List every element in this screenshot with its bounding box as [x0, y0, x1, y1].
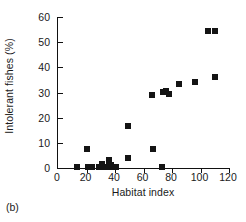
x-axis-tick-label: 0	[54, 172, 60, 183]
y-axis-tick-label: 20	[38, 112, 50, 123]
y-axis-title-text: Intolerant fishes (%)	[3, 38, 15, 133]
y-axis-tick-label: 10	[38, 138, 50, 149]
data-point	[150, 146, 156, 152]
panel-label: (b)	[6, 201, 19, 213]
x-axis-tick-label: 20	[80, 172, 92, 183]
data-point	[212, 28, 218, 34]
y-axis-title: Intolerant fishes (%)	[0, 0, 18, 172]
data-point	[205, 28, 211, 34]
y-axis-tick-label: 30	[38, 87, 50, 98]
x-axis-tick-label: 100	[191, 172, 209, 183]
x-axis-tick-labels: 020406080100120	[57, 172, 237, 186]
data-point	[89, 164, 95, 170]
x-axis-tick-label: 80	[165, 172, 177, 183]
data-point	[74, 164, 80, 170]
y-axis-tick-label: 40	[38, 62, 50, 73]
data-point	[166, 91, 172, 97]
y-axis-tick-label: 50	[38, 37, 50, 48]
scatter-chart-figure: Intolerant fishes (%) 0102030405060 0204…	[0, 0, 246, 222]
data-point	[125, 155, 131, 161]
y-axis-tick-mark	[58, 93, 63, 94]
x-axis-tick-label: 120	[219, 172, 237, 183]
y-axis-tick-mark	[58, 67, 63, 68]
y-axis-tick-label: 0	[44, 163, 50, 174]
x-axis-tick-label: 40	[108, 172, 120, 183]
x-axis-tick-label: 60	[137, 172, 149, 183]
data-point	[113, 164, 119, 170]
y-axis-tick-mark	[58, 168, 63, 169]
data-point	[176, 81, 182, 87]
y-axis-tick-labels: 0102030405060	[18, 0, 54, 180]
data-point	[192, 79, 198, 85]
plot-area	[57, 17, 229, 169]
y-axis-tick-label: 60	[38, 12, 50, 23]
data-point	[212, 74, 218, 80]
data-point	[125, 123, 131, 129]
data-point	[149, 92, 155, 98]
y-axis-tick-mark	[58, 42, 63, 43]
y-axis-tick-mark	[58, 143, 63, 144]
y-axis-tick-mark	[58, 118, 63, 119]
x-axis-title: Habitat index	[57, 186, 229, 198]
data-point	[84, 146, 90, 152]
y-axis-tick-mark	[58, 17, 63, 18]
data-point	[159, 164, 165, 170]
